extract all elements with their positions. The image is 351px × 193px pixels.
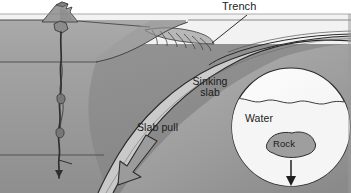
conduit-node-a [57, 94, 65, 104]
conduit-node-b [56, 128, 64, 138]
water-label: Water [245, 113, 273, 124]
figure-canvas: Trench Sinking slab Slab pull Water Rock [0, 0, 351, 193]
sinking-slab-line2: slab [200, 86, 220, 98]
slab-pull-label: Slab pull [137, 122, 178, 133]
trench-label: Trench [222, 1, 256, 13]
sinking-slab-label: Sinking slab [180, 76, 240, 99]
sinking-slab-line1: Sinking [192, 75, 227, 87]
subduction-zone-diagram [0, 0, 351, 193]
rock-label: Rock [273, 139, 295, 149]
